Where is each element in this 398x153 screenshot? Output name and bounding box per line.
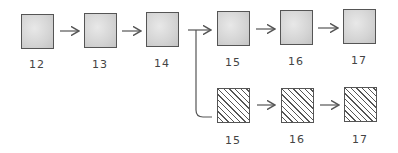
box-15 <box>217 11 250 46</box>
diagram-canvas: 12 13 14 15 16 17 15 16 17 <box>0 0 398 153</box>
box-16 <box>280 10 313 45</box>
box-14 <box>146 12 179 47</box>
label-17-hatched: 17 <box>340 133 380 146</box>
box-16-hatched <box>281 88 314 123</box>
box-15-hatched <box>217 88 250 123</box>
branch-down-connector <box>196 30 212 117</box>
box-17-hatched <box>344 87 377 122</box>
box-13 <box>84 13 117 48</box>
connectors <box>0 0 398 153</box>
label-14: 14 <box>142 57 182 70</box>
box-17 <box>343 9 376 44</box>
label-15-hatched: 15 <box>213 134 253 147</box>
label-13: 13 <box>80 58 120 71</box>
box-12 <box>21 14 54 49</box>
label-12: 12 <box>17 58 57 71</box>
label-16: 16 <box>276 55 316 68</box>
label-16-hatched: 16 <box>277 133 317 146</box>
label-15: 15 <box>213 56 253 69</box>
label-17: 17 <box>339 54 379 67</box>
